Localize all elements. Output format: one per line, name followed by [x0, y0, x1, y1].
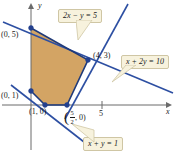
x-tick-label-5: 5 [99, 110, 103, 118]
y-axis-label: y [38, 2, 42, 10]
vertex-5over2-0 [65, 103, 70, 108]
vertex-0-1 [29, 89, 34, 94]
point-label-4-3: (4, 3) [93, 52, 110, 60]
point-label-0-5: (0, 5) [1, 31, 18, 39]
vertex-0-5 [29, 26, 34, 31]
linear-programming-figure: y x 5 (0, 5) (0, 1) (1, 0) (4, 3) ( 5 2 … [0, 0, 176, 158]
point-label-1-0: (1, 0) [29, 108, 46, 116]
fraction-numerator: 5 [70, 110, 73, 117]
fraction-five-halves: 5 2 [70, 110, 75, 125]
point-label-0-1: (0, 1) [1, 92, 18, 100]
point-label-5over2-0: ( 5 2 , 0) [64, 110, 86, 125]
callout-tail-x-plus-y [72, 124, 96, 144]
x-axis-label: x [166, 108, 170, 116]
y-axis-arrow [28, 3, 34, 9]
fraction-open-paren: ( [64, 110, 69, 125]
callout-tail-x-plus-2y [112, 65, 136, 85]
callout-tail-2x-minus-y [76, 20, 102, 42]
vertex-4-3 [86, 58, 91, 63]
fraction-rest: , 0) [75, 114, 86, 122]
